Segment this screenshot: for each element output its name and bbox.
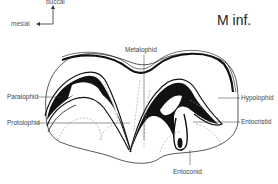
label-entoconid: Entoconid (173, 168, 202, 175)
mesial-label: mesial (11, 20, 30, 27)
entoconid-fossette (178, 138, 183, 148)
label-metalophid: Metalophid (125, 46, 157, 54)
tooth-diagram: buccal mesial M inf. (0, 0, 278, 184)
label-paralophid: Paralophid (7, 93, 38, 101)
orientation-compass: buccal mesial (11, 0, 65, 27)
label-hypolophid: Hypolophid (241, 94, 274, 102)
diagram-title: M inf. (217, 12, 251, 28)
arrow-up-icon (51, 5, 55, 9)
label-protolophid: Protolophid (7, 119, 40, 127)
tooth-outline (46, 53, 238, 163)
buccal-label: buccal (46, 0, 65, 5)
arrow-left-icon (36, 22, 40, 26)
label-entocristid: Entocristid (241, 118, 272, 125)
